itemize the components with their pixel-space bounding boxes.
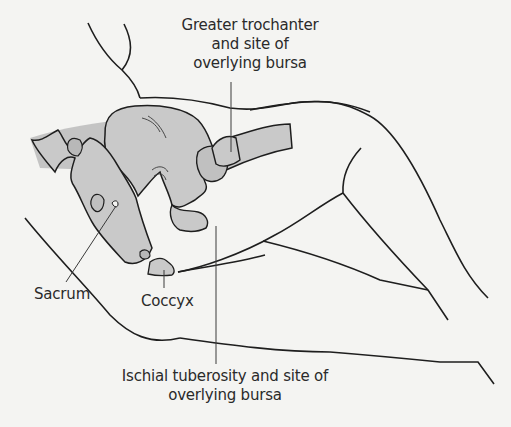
coccyx-tip (140, 250, 150, 259)
label-line: overlying bursa (50, 386, 400, 405)
greater-trochanter-bone (212, 136, 240, 166)
ischial-tuberosity-bone (170, 205, 207, 231)
label-line: overlying bursa (150, 54, 350, 73)
thigh-fold (178, 193, 343, 272)
label-ischial-tuberosity: Ischial tuberosity and site of overlying… (50, 367, 400, 405)
label-sacrum: Sacrum (34, 285, 90, 304)
lower-thigh-outline (263, 241, 428, 290)
label-line: and site of (150, 35, 350, 54)
sacral-lobe (68, 138, 83, 156)
flank-outline (122, 24, 131, 70)
label-line: Greater trochanter (150, 16, 350, 35)
label-coccyx: Coccyx (141, 292, 194, 311)
coccyx-bone (148, 258, 174, 275)
label-line: Ischial tuberosity and site of (50, 367, 400, 386)
sacral-lobe-2 (91, 194, 104, 211)
buttock-lower-outline (178, 255, 265, 272)
label-greater-trochanter: Greater trochanter and site of overlying… (150, 16, 350, 73)
knee-crease (343, 148, 448, 320)
waist-outline (88, 23, 140, 98)
